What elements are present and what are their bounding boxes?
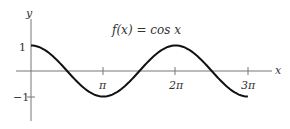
y-axis-label: y: [26, 8, 32, 19]
function-label: f(x) = cos x: [112, 24, 181, 36]
x-tick-label-2pi: 2π: [169, 80, 183, 91]
x-tick-label-pi: π: [99, 80, 106, 91]
chart-canvas: [0, 0, 290, 129]
x-axis-label: x: [275, 65, 281, 76]
y-tick-label-one: 1: [19, 42, 26, 53]
cosine-chart: y x 1 −1 π 2π 3π f(x) = cos x: [0, 0, 290, 129]
y-tick-label-neg-one: −1: [13, 92, 29, 103]
x-tick-label-3pi: 3π: [241, 80, 255, 91]
